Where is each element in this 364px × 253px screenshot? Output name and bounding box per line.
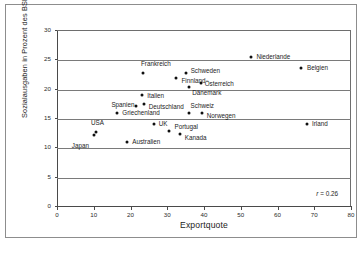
data-point-label: Spanien [111, 101, 134, 107]
x-axis-title: Exportquote [57, 220, 351, 230]
correlation-annotation: r = 0.26 [316, 191, 338, 197]
x-tick-label: 20 [127, 212, 134, 218]
plot-area: JapanUSAGriechenlandAustralienSpanienIta… [57, 30, 351, 206]
data-point-label: Japan [72, 143, 89, 149]
gridline-y [57, 60, 351, 61]
data-point [300, 66, 303, 69]
x-tick-label: 70 [311, 212, 318, 218]
data-point [94, 131, 97, 134]
x-tick-mark [351, 207, 352, 210]
data-point-label: Schweden [191, 67, 220, 73]
x-tick-label: 80 [348, 212, 355, 218]
data-point [141, 71, 144, 74]
x-tick-mark [278, 207, 279, 210]
data-point-label: Australien [132, 139, 160, 145]
x-tick-mark [57, 207, 58, 210]
data-point-label: Schweiz [191, 103, 214, 109]
data-point-label: Kanada [185, 135, 207, 141]
x-tick-label: 30 [164, 212, 171, 218]
data-point [187, 112, 190, 115]
x-tick-mark [131, 207, 132, 210]
data-point-label: Irland [312, 121, 328, 127]
data-point-label: Dänemark [192, 90, 221, 96]
data-point [142, 102, 145, 105]
x-tick-mark [241, 207, 242, 210]
y-tick-label: 0 [48, 203, 51, 209]
data-point [178, 132, 181, 135]
data-point-label: Niederlande [256, 54, 290, 60]
x-tick-label: 10 [90, 212, 97, 218]
data-point-label: USA [91, 120, 104, 126]
y-tick-label: 20 [44, 86, 51, 92]
data-point [152, 123, 155, 126]
x-tick-label: 40 [201, 212, 208, 218]
y-tick-label: 30 [44, 27, 51, 33]
data-point [141, 93, 144, 96]
data-point [200, 112, 203, 115]
x-tick-label: 60 [274, 212, 281, 218]
x-tick-mark [167, 207, 168, 210]
correlation-equals: = [318, 190, 325, 197]
data-point [188, 85, 191, 88]
data-point [126, 140, 129, 143]
x-tick-label: 50 [237, 212, 244, 218]
data-point [92, 134, 95, 137]
gridline-y [57, 148, 351, 149]
data-point-label: Österreich [205, 81, 234, 87]
data-point [175, 76, 178, 79]
data-point [135, 104, 138, 107]
data-point-label: Griechenland [122, 109, 159, 115]
data-point-label: Deutschland [149, 104, 184, 110]
x-tick-mark [94, 207, 95, 210]
data-point [199, 82, 202, 85]
data-point [305, 122, 308, 125]
y-axis-title: Sozialausgaben in Prozent des BSP [20, 0, 29, 118]
data-point [184, 71, 187, 74]
data-point-label: Italien [147, 93, 164, 99]
x-tick-mark [204, 207, 205, 210]
chart-page: Sozialausgaben in Prozent des BSP Export… [0, 0, 364, 253]
y-tick-label: 10 [44, 144, 51, 150]
correlation-value: 0.26 [326, 190, 338, 197]
gridline-y [57, 178, 351, 179]
data-point [116, 111, 119, 114]
x-tick-label: 0 [55, 212, 58, 218]
y-tick-label: 15 [44, 115, 51, 121]
data-point-label: Norwegen [207, 113, 236, 119]
data-point [250, 55, 253, 58]
data-point [168, 130, 171, 133]
x-tick-mark [314, 207, 315, 210]
figure-frame: Sozialausgaben in Prozent des BSP Export… [5, 4, 357, 238]
data-point-label: Frankreich [141, 60, 171, 66]
data-point-label: Belgien [307, 65, 328, 71]
y-tick-label: 25 [44, 56, 51, 62]
data-point-label: UK [159, 121, 168, 127]
x-axis: 01020304050607080 [57, 206, 352, 207]
data-point-label: Portugal [174, 124, 197, 130]
y-tick-label: 5 [48, 174, 51, 180]
